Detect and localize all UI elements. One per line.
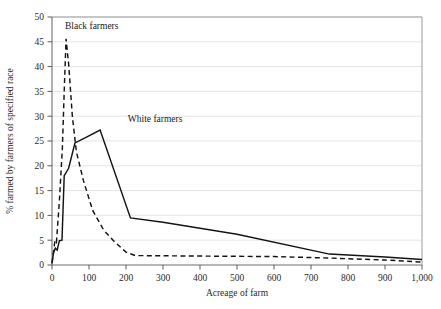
x-tick-label-100: 100 (82, 273, 97, 283)
x-tick-labels: 01002003004005006007008009001,000 (50, 273, 433, 283)
y-tick-label-30: 30 (35, 112, 45, 122)
y-tick-label-10: 10 (35, 211, 45, 221)
gridlines (52, 17, 422, 240)
x-tick-label-200: 200 (119, 273, 134, 283)
y-tick-label-35: 35 (35, 87, 45, 97)
series-line-white-farmers (52, 130, 422, 263)
x-axis (52, 265, 422, 270)
y-tick-label-5: 5 (39, 236, 44, 246)
y-tick-label-45: 45 (35, 37, 45, 47)
x-tick-label-900: 900 (378, 273, 393, 283)
x-tick-label-800: 800 (341, 273, 356, 283)
y-tick-label-40: 40 (35, 62, 45, 72)
y-tick-label-25: 25 (35, 136, 45, 146)
series-annotation-black-farmers: Black farmers (65, 21, 119, 31)
x-tick-label-400: 400 (193, 273, 208, 283)
x-axis-title: Acreage of farm (206, 288, 269, 298)
y-tick-label-15: 15 (35, 186, 45, 196)
series-annotation-white-farmers: White farmers (128, 114, 183, 124)
x-tick-label-700: 700 (304, 273, 319, 283)
x-tick-label-300: 300 (156, 273, 171, 283)
y-tick-label-50: 50 (35, 12, 45, 22)
y-tick-labels: 05101520253035404550 (35, 12, 45, 270)
line-chart: 05101520253035404550 0100200300400500600… (0, 0, 441, 309)
y-tick-label-0: 0 (39, 260, 44, 270)
series-annotations: Black farmersWhite farmers (65, 21, 183, 124)
x-tick-label-1000: 1,000 (411, 273, 433, 283)
x-tick-label-500: 500 (230, 273, 245, 283)
y-tick-label-20: 20 (35, 161, 45, 171)
x-tick-label-600: 600 (267, 273, 282, 283)
series-layer (52, 39, 422, 264)
x-tick-label-0: 0 (50, 273, 55, 283)
y-axis (48, 17, 53, 265)
chart-container: 05101520253035404550 0100200300400500600… (0, 0, 441, 309)
y-axis-title: % farmed by farmers of specified race (5, 68, 15, 214)
